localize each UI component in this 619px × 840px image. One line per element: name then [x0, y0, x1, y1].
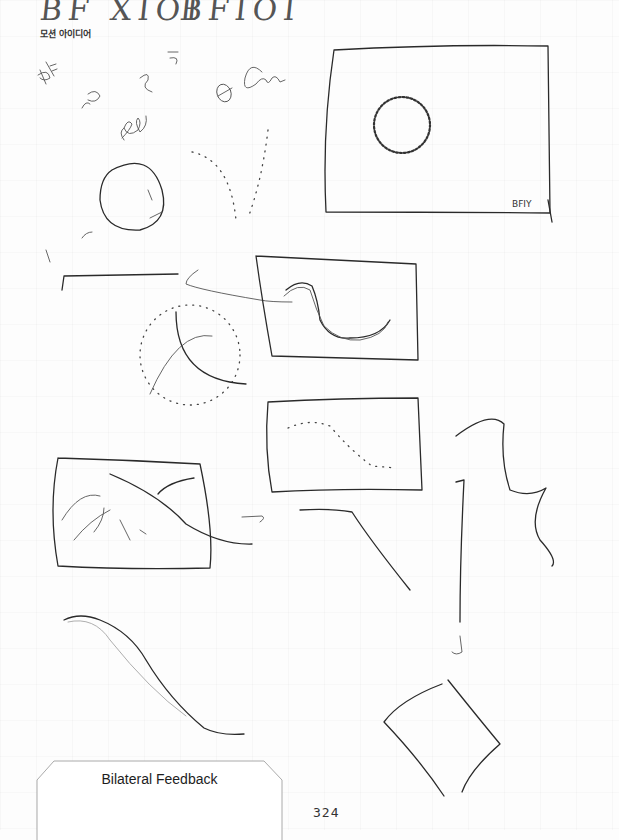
hand-circle — [100, 163, 164, 230]
frame-with-dotted-ring: BFIY — [325, 46, 552, 223]
descending-s-curve — [64, 616, 244, 734]
dotted-v-trail — [192, 130, 268, 220]
doodle-notes — [38, 52, 285, 140]
frame-signature: BFIY — [512, 199, 532, 209]
frame-with-wave — [256, 256, 418, 360]
frame-with-dotted-curve — [267, 398, 422, 492]
descending-line — [300, 509, 410, 590]
dotted-radial-burst — [140, 305, 246, 405]
page-number: 324 — [313, 805, 339, 820]
arrow-right — [242, 516, 264, 522]
squiggle — [456, 419, 554, 566]
diamond — [384, 680, 500, 796]
section-label: Bilateral Feedback — [36, 771, 283, 787]
frame-with-diagonal — [53, 458, 252, 569]
vertical-arrow-down — [452, 480, 464, 654]
section-label-tab: Bilateral Feedback — [36, 760, 283, 840]
horizontal-line-arrow — [46, 232, 292, 302]
